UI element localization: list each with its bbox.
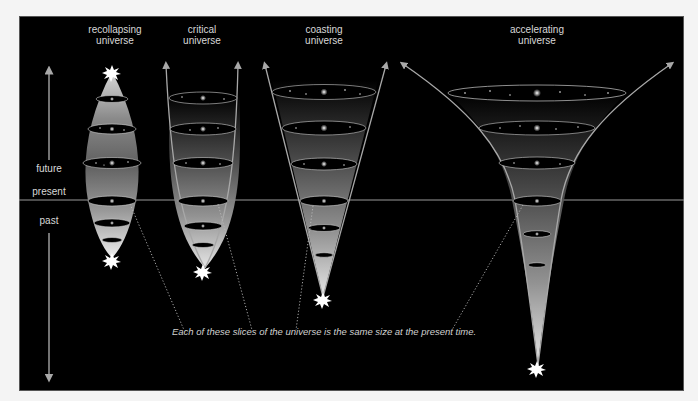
big-bang-star-icon (193, 264, 212, 281)
slices-caption: Each of these slices of the universe is … (172, 326, 476, 337)
title-line: critical (142, 24, 262, 35)
past-label: past (19, 215, 79, 226)
coasting-universe-title: coasting universe (264, 24, 384, 46)
title-line: coasting (264, 24, 384, 35)
present-label: present (19, 186, 79, 197)
title-line: accelerating (477, 24, 597, 35)
accelerating-universe-title: accelerating universe (477, 24, 597, 46)
critical-universe-title: critical universe (142, 24, 262, 46)
universe-diagram-svg (0, 0, 698, 401)
coasting-universe-shape (265, 65, 386, 309)
recollapsing-universe-shape (83, 65, 141, 270)
big-crunch-star-icon (102, 65, 121, 82)
title-line: universe (142, 35, 262, 46)
title-line: universe (264, 35, 384, 46)
critical-universe-shape (166, 65, 240, 281)
future-label: future (19, 163, 79, 174)
big-bang-star-icon (102, 253, 121, 270)
title-line: universe (477, 35, 597, 46)
big-bang-star-icon (313, 292, 332, 309)
big-bang-star-icon (527, 361, 546, 378)
